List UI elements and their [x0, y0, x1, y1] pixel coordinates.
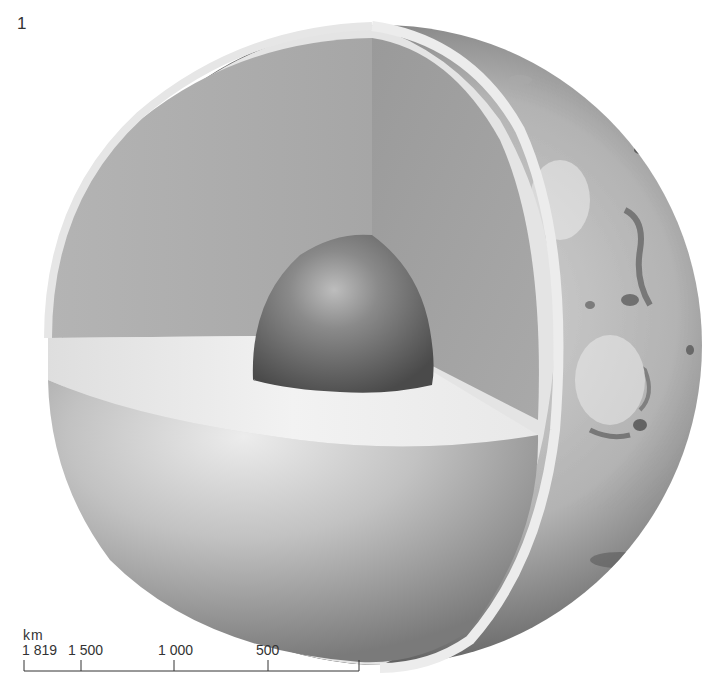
- scale-bar: [24, 660, 359, 671]
- scale-tick-label: 1 819: [22, 642, 57, 658]
- moon-cutaway-diagram: [0, 0, 710, 688]
- scale-tick-label: 1 500: [68, 642, 103, 658]
- scale-unit-label: km: [23, 627, 44, 643]
- scale-tick-label: 500: [256, 642, 279, 658]
- figure-number: 1: [17, 14, 26, 34]
- scale-tick-label: 1 000: [158, 642, 193, 658]
